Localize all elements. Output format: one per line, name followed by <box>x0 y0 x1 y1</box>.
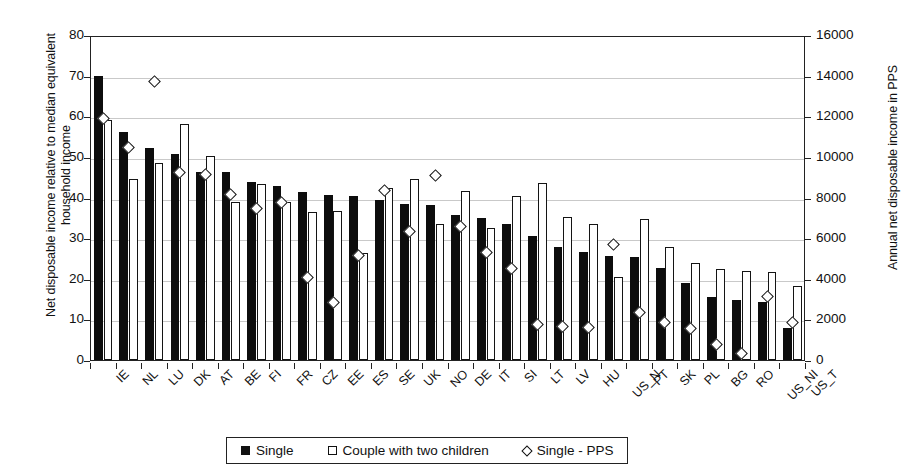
bar-group[interactable] <box>551 37 577 360</box>
bar-group[interactable] <box>346 37 372 360</box>
bar-couple-two-children[interactable] <box>282 202 291 360</box>
x-tick-mark <box>345 363 346 369</box>
x-tick-label-bg: BG <box>728 367 751 390</box>
x-tick-label-sk: SK <box>676 367 698 389</box>
bar-group[interactable] <box>525 37 551 360</box>
bar-single[interactable] <box>528 236 537 360</box>
bar-couple-two-children[interactable] <box>640 219 649 360</box>
bar-group[interactable] <box>168 37 194 360</box>
marker-single-pps[interactable] <box>608 238 621 251</box>
bar-couple-two-children[interactable] <box>308 212 317 360</box>
y-tick-label-left: 10 <box>44 311 84 326</box>
legend-item-single[interactable]: Single <box>241 443 294 458</box>
plot-area <box>90 36 805 361</box>
bar-single[interactable] <box>758 302 767 360</box>
bar-group[interactable] <box>193 37 219 360</box>
bar-single[interactable] <box>783 328 792 361</box>
bar-group[interactable] <box>142 37 168 360</box>
bar-group[interactable] <box>91 37 117 360</box>
bar-group[interactable] <box>576 37 602 360</box>
bar-group[interactable] <box>474 37 500 360</box>
x-tick-mark <box>422 363 423 369</box>
bar-group[interactable] <box>678 37 704 360</box>
bar-group[interactable] <box>423 37 449 360</box>
bar-couple-two-children[interactable] <box>461 191 470 360</box>
x-tick-label-dk: DK <box>191 367 213 389</box>
bar-group[interactable] <box>653 37 679 360</box>
bar-couple-two-children[interactable] <box>410 179 419 360</box>
bar-couple-two-children[interactable] <box>180 124 189 360</box>
bar-single[interactable] <box>222 172 231 360</box>
bar-couple-two-children[interactable] <box>129 179 138 360</box>
x-tick-label-it: IT <box>496 367 514 385</box>
bar-couple-two-children[interactable] <box>614 277 623 360</box>
bar-couple-two-children[interactable] <box>768 272 777 360</box>
marker-single-pps[interactable] <box>148 75 161 88</box>
bar-group[interactable] <box>729 37 755 360</box>
bar-group[interactable] <box>397 37 423 360</box>
bar-couple-two-children[interactable] <box>563 217 572 360</box>
bar-single[interactable] <box>196 172 205 360</box>
open-square-icon <box>328 446 337 455</box>
bar-single[interactable] <box>349 196 358 360</box>
bar-couple-two-children[interactable] <box>155 163 164 360</box>
bar-couple-two-children[interactable] <box>359 253 368 360</box>
legend-item-single-pps[interactable]: Single - PPS <box>523 443 614 458</box>
bar-group[interactable] <box>602 37 628 360</box>
bar-group[interactable] <box>295 37 321 360</box>
bar-group[interactable] <box>244 37 270 360</box>
bar-single[interactable] <box>171 154 180 360</box>
y-tick-label-left: 70 <box>44 68 84 83</box>
bar-group[interactable] <box>270 37 296 360</box>
filled-square-icon <box>241 446 250 455</box>
diamond-icon <box>521 445 532 456</box>
bar-single[interactable] <box>477 218 486 360</box>
bar-group[interactable] <box>704 37 730 360</box>
bar-group[interactable] <box>627 37 653 360</box>
bar-group[interactable] <box>449 37 475 360</box>
bar-couple-two-children[interactable] <box>231 202 240 360</box>
bar-single[interactable] <box>707 297 716 360</box>
x-tick-mark <box>269 363 270 369</box>
bar-single[interactable] <box>324 195 333 360</box>
bar-group[interactable] <box>372 37 398 360</box>
bar-single[interactable] <box>145 148 154 360</box>
x-tick-label-uk: UK <box>421 367 443 389</box>
bar-couple-two-children[interactable] <box>589 224 598 361</box>
bar-couple-two-children[interactable] <box>104 120 113 360</box>
bar-group[interactable] <box>321 37 347 360</box>
bar-single[interactable] <box>579 252 588 360</box>
bar-single[interactable] <box>502 224 511 360</box>
bar-single[interactable] <box>273 186 282 360</box>
y-tick-label-left: 60 <box>44 108 84 123</box>
bar-single[interactable] <box>119 132 128 360</box>
bar-couple-two-children[interactable] <box>665 247 674 360</box>
bar-couple-two-children[interactable] <box>538 183 547 360</box>
legend-item-couple[interactable]: Couple with two children <box>328 443 489 458</box>
x-tick-mark <box>473 363 474 369</box>
bar-single[interactable] <box>656 268 665 360</box>
bar-couple-two-children[interactable] <box>512 196 521 360</box>
bar-single[interactable] <box>681 283 690 360</box>
bar-group[interactable] <box>117 37 143 360</box>
marker-single-pps[interactable] <box>429 169 442 182</box>
bar-couple-two-children[interactable] <box>333 211 342 360</box>
bar-couple-two-children[interactable] <box>385 188 394 360</box>
x-tick-mark <box>728 363 729 369</box>
bar-couple-two-children[interactable] <box>206 156 215 360</box>
bar-group[interactable] <box>500 37 526 360</box>
bar-group[interactable] <box>780 37 806 360</box>
bar-couple-two-children[interactable] <box>436 224 445 360</box>
bar-single[interactable] <box>375 200 384 360</box>
bar-group[interactable] <box>755 37 781 360</box>
bar-single[interactable] <box>451 215 460 360</box>
x-tick-mark <box>677 363 678 369</box>
x-tick-label-no: NO <box>447 367 470 390</box>
bar-group[interactable] <box>219 37 245 360</box>
bar-couple-two-children[interactable] <box>691 263 700 361</box>
bar-single[interactable] <box>605 256 614 360</box>
bar-couple-two-children[interactable] <box>742 271 751 360</box>
bar-single[interactable] <box>426 205 435 360</box>
bar-single[interactable] <box>554 247 563 360</box>
x-tick-label-lt: LT <box>548 367 568 387</box>
